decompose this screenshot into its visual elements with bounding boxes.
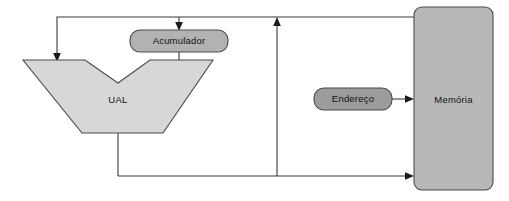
node-acumulador[interactable]: Acumulador <box>130 30 228 52</box>
arrow-up-into-top-bus-icon <box>273 17 281 26</box>
node-endereco[interactable]: Endereço <box>314 88 392 110</box>
memoria-label: Memória <box>434 94 473 105</box>
arrow-right-into-memoria-bottom-icon <box>405 172 414 180</box>
endereco-label: Endereço <box>332 93 374 104</box>
diagram-canvas: UAL Acumulador Endereço Memória <box>0 0 509 201</box>
connection-memoria-to-ual <box>57 17 414 58</box>
architecture-diagram: UAL Acumulador Endereço Memória <box>0 0 509 201</box>
node-ual[interactable]: UAL <box>23 60 213 133</box>
arrow-right-into-memoria-middle-icon <box>405 95 414 103</box>
ual-label: UAL <box>108 94 127 105</box>
node-memoria[interactable]: Memória <box>414 7 493 190</box>
acumulador-label: Acumulador <box>153 35 206 46</box>
